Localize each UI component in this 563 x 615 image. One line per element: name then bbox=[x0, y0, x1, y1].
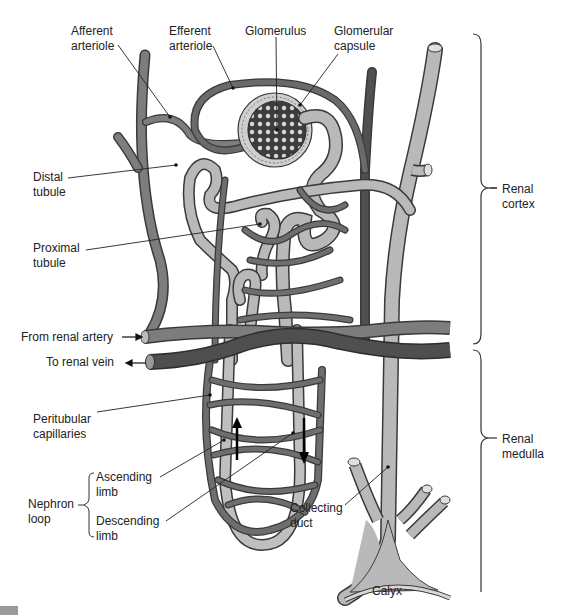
label-line: Renal bbox=[502, 182, 535, 197]
label-line: tubule bbox=[33, 256, 80, 271]
label-line: Calyx bbox=[372, 584, 402, 599]
label-line: cortex bbox=[502, 197, 535, 212]
label-ascending-limb: Ascending limb bbox=[96, 470, 152, 499]
label-collecting-duct: Collecting duct bbox=[290, 501, 343, 530]
label-line: Descending bbox=[96, 514, 159, 529]
label-peritubular-capillaries: Peritubular capillaries bbox=[33, 412, 91, 441]
label-line: To renal vein bbox=[46, 355, 114, 370]
label-glomerulus: Glomerulus bbox=[245, 24, 306, 39]
label-line: Distal bbox=[33, 170, 66, 185]
renal-cortex-bracket bbox=[473, 34, 497, 344]
label-line: capsule bbox=[334, 39, 393, 54]
label-from-renal-artery: From renal artery bbox=[21, 330, 113, 345]
corner-marker bbox=[0, 606, 18, 615]
nephron-diagram bbox=[0, 0, 563, 615]
label-line: Efferent bbox=[169, 24, 212, 39]
label-nephron-loop: Nephron loop bbox=[28, 497, 74, 526]
label-line: limb bbox=[96, 529, 159, 544]
label-line: Proximal bbox=[33, 241, 80, 256]
label-line: Ascending bbox=[96, 470, 152, 485]
renal-medulla-bracket bbox=[473, 350, 497, 592]
label-line: capillaries bbox=[33, 427, 91, 442]
label-renal-medulla: Renal medulla bbox=[502, 432, 544, 461]
label-renal-cortex: Renal cortex bbox=[502, 182, 535, 211]
label-line: loop bbox=[28, 512, 74, 527]
label-line: tubule bbox=[33, 185, 66, 200]
label-line: arteriole bbox=[169, 39, 212, 54]
label-line: Peritubular bbox=[33, 412, 91, 427]
label-line: arteriole bbox=[71, 39, 114, 54]
label-glomerular-capsule: Glomerular capsule bbox=[334, 24, 393, 53]
label-line: duct bbox=[290, 516, 343, 531]
label-descending-limb: Descending limb bbox=[96, 514, 159, 543]
label-proximal-tubule: Proximal tubule bbox=[33, 241, 80, 270]
label-line: Renal bbox=[502, 432, 544, 447]
label-distal-tubule: Distal tubule bbox=[33, 170, 66, 199]
label-line: Afferent bbox=[71, 24, 114, 39]
label-line: Glomerulus bbox=[245, 24, 306, 39]
label-to-renal-vein: To renal vein bbox=[46, 355, 114, 370]
label-calyx: Calyx bbox=[372, 584, 402, 599]
label-line: limb bbox=[96, 485, 152, 500]
label-afferent-arteriole: Afferent arteriole bbox=[71, 24, 114, 53]
label-line: medulla bbox=[502, 447, 544, 462]
label-line: Nephron bbox=[28, 497, 74, 512]
label-line: Glomerular bbox=[334, 24, 393, 39]
label-line: Collecting bbox=[290, 501, 343, 516]
label-line: From renal artery bbox=[21, 330, 113, 345]
nephron-loop-bracket bbox=[84, 473, 94, 537]
label-efferent-arteriole: Efferent arteriole bbox=[169, 24, 212, 53]
